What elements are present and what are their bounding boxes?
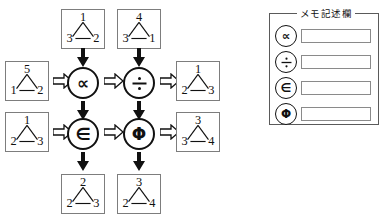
memo-input-element-of[interactable] <box>301 81 371 95</box>
graph-node-bottom-right: 3 <box>208 83 214 97</box>
graph-edge <box>27 125 37 139</box>
graph-node-top: 2 <box>80 175 86 189</box>
triangle-graph: 2 2 3 <box>62 175 104 213</box>
division-glyph <box>131 75 148 92</box>
graph-edge <box>27 74 37 88</box>
graph-node-bottom-left: 2 <box>123 196 129 210</box>
graph-edge <box>73 22 83 36</box>
graph-edge <box>198 125 208 139</box>
memo-row-proportional-to: ∝ <box>275 25 371 47</box>
division-sign-icon <box>275 51 297 73</box>
arrow-head <box>104 74 123 88</box>
right-arrow-row2-b <box>104 124 124 140</box>
phi-icon: Φ <box>275 103 297 125</box>
right-arrow-row1-b <box>104 73 124 89</box>
memo-row-element-of: ∈ <box>275 77 371 99</box>
graph-edge <box>139 22 149 36</box>
triangle-graph: 1 3 2 <box>62 10 104 48</box>
graph-node-bottom-left: 2 <box>182 83 188 97</box>
arrow-head <box>77 48 89 67</box>
graph-box-row2-input: 1 2 3 <box>5 112 49 152</box>
graph-node-bottom-left: 3 <box>182 134 188 148</box>
graph-edge <box>83 187 93 201</box>
graph-edge <box>188 125 198 139</box>
memo-input-proportional-to[interactable] <box>301 29 371 43</box>
graph-node-bottom-left: 3 <box>67 31 73 45</box>
graph-box-row2-output: 3 3 4 <box>176 112 220 152</box>
down-arrow-top-left <box>76 48 90 67</box>
graph-box-row1-input: 5 1 2 <box>5 61 49 101</box>
memo-panel-title: メモ記述欄 <box>297 6 355 20</box>
arrow-head <box>133 152 145 171</box>
graph-edge <box>188 74 198 88</box>
element-of-icon: ∈ <box>275 77 297 99</box>
graph-edge <box>17 74 27 88</box>
graph-node-top: 4 <box>136 10 142 24</box>
graph-edge <box>129 22 139 36</box>
memo-row-phi: Φ <box>275 103 371 125</box>
graph-box-top-right: 4 3 1 <box>117 9 161 49</box>
graph-edge <box>17 125 27 139</box>
operator-proportional-to[interactable]: ∝ <box>67 67 99 99</box>
operator-symbol: Φ <box>132 126 146 143</box>
division-glyph <box>280 56 293 69</box>
graph-edge <box>198 74 208 88</box>
graph-node-bottom-right: 3 <box>93 196 99 210</box>
graph-node-top: 3 <box>195 113 201 127</box>
triangle-graph: 3 2 4 <box>118 175 160 213</box>
graph-node-top: 1 <box>80 10 86 24</box>
graph-edge <box>139 187 149 201</box>
graph-node-bottom-left: 1 <box>11 83 17 97</box>
graph-node-bottom-left: 2 <box>67 196 73 210</box>
memo-symbol-glyph: ∈ <box>281 82 292 94</box>
graph-edge <box>73 187 83 201</box>
memo-symbol-glyph: Φ <box>281 108 291 120</box>
proportional-to-icon: ∝ <box>275 25 297 47</box>
memo-input-phi[interactable] <box>301 107 371 121</box>
graph-node-top: 3 <box>136 175 142 189</box>
operator-division-sign[interactable] <box>123 67 155 99</box>
down-arrow-bottom-right <box>132 152 146 171</box>
triangle-graph: 5 1 2 <box>6 62 48 100</box>
triangle-graph: 4 3 1 <box>118 10 160 48</box>
graph-box-bottom-right: 3 2 4 <box>117 174 161 214</box>
graph-node-bottom-left: 2 <box>11 134 17 148</box>
graph-node-bottom-left: 3 <box>123 31 129 45</box>
graph-box-top-left: 1 3 2 <box>61 9 105 49</box>
arrow-head <box>77 152 89 171</box>
operator-phi[interactable]: Φ <box>123 118 155 150</box>
graph-node-top: 1 <box>195 62 201 76</box>
operator-element-of[interactable]: ∈ <box>67 118 99 150</box>
graph-node-top: 5 <box>24 62 30 76</box>
graph-node-bottom-right: 2 <box>93 31 99 45</box>
memo-row-division-sign <box>275 51 371 73</box>
memo-input-division-sign[interactable] <box>301 55 371 69</box>
graph-node-top: 1 <box>24 113 30 127</box>
graph-edge <box>129 187 139 201</box>
down-arrow-top-right <box>132 48 146 67</box>
operator-symbol: ∝ <box>77 75 89 92</box>
down-arrow-bottom-left <box>76 152 90 171</box>
arrow-head <box>104 125 123 139</box>
triangle-graph: 1 2 3 <box>6 113 48 151</box>
graph-node-bottom-right: 2 <box>37 83 43 97</box>
graph-edge <box>83 22 93 36</box>
graph-node-bottom-right: 3 <box>37 134 43 148</box>
graph-box-bottom-left: 2 2 3 <box>61 174 105 214</box>
graph-node-bottom-right: 4 <box>208 134 214 148</box>
arrow-head <box>133 48 145 67</box>
graph-node-bottom-right: 1 <box>149 31 155 45</box>
triangle-graph: 1 2 3 <box>177 62 219 100</box>
triangle-graph: 3 3 4 <box>177 113 219 151</box>
operator-symbol: ∈ <box>75 126 90 143</box>
graph-node-bottom-right: 4 <box>149 196 155 210</box>
graph-box-row1-output: 1 2 3 <box>176 61 220 101</box>
memo-symbol-glyph: ∝ <box>282 30 291 42</box>
